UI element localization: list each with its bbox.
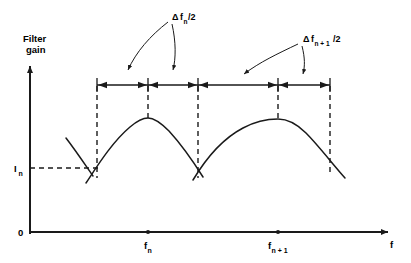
dim-arrow-1-left xyxy=(138,82,147,88)
dim-arrow-4-left xyxy=(320,82,329,88)
y-tick-label-in-sub: n xyxy=(19,170,23,177)
x-tick-fn: f n xyxy=(144,230,152,254)
annotation-delta-symbol-1: Δ xyxy=(172,12,179,22)
y-axis-label-line2: gain xyxy=(26,44,46,55)
annotation-suffix-2: /2 xyxy=(333,34,341,44)
annotation-sub-2: n + 1 xyxy=(315,40,330,47)
leader-delta-fn-right xyxy=(172,24,175,70)
filter-response-curves xyxy=(66,118,345,183)
x-tick-label-fn1-sub: n + 1 xyxy=(272,247,288,254)
dim-arrow-1-right xyxy=(98,82,107,88)
bandwidth-dimension-line xyxy=(97,78,330,92)
annotation-suffix-1: /2 xyxy=(188,12,196,22)
leader-delta-fn1-left xyxy=(244,44,298,74)
y-axis-label-line1: Filter xyxy=(23,33,47,44)
leader-delta-fn-left xyxy=(128,22,168,70)
annotation-sub-1: n xyxy=(184,18,188,25)
dim-arrow-2-right xyxy=(149,82,158,88)
annotation-delta-fn-over-2: Δ f n /2 xyxy=(172,12,196,25)
y-tick-label-in: I n xyxy=(14,163,23,177)
x-tick-fn-plus-1: f n + 1 xyxy=(268,230,288,254)
curve-filter-n-plus-1 xyxy=(193,119,345,180)
axes-group xyxy=(30,66,388,234)
dim-arrow-2-left xyxy=(188,82,197,88)
annotation-leaders xyxy=(128,22,304,74)
filter-gain-diagram: Filter gain I n 0 f f n f n + 1 xyxy=(0,0,411,263)
x-tick-dot-fn-plus-1 xyxy=(276,230,280,234)
curve-filter-n-minus-1-tail xyxy=(66,138,93,176)
dim-arrow-3-left xyxy=(268,82,277,88)
dim-arrow-3-right xyxy=(199,82,208,88)
figure-canvas: Filter gain I n 0 f f n f n + 1 xyxy=(0,0,411,263)
dim-arrow-4-right xyxy=(279,82,288,88)
annotation-delta-fn-plus-1-over-2: Δ f n + 1 /2 xyxy=(303,34,341,47)
y-tick-label-in-main: I xyxy=(14,163,17,174)
x-axis-label: f xyxy=(390,239,394,250)
x-tick-dot-fn xyxy=(146,230,150,234)
origin-label: 0 xyxy=(18,227,23,238)
x-tick-label-fn-sub: n xyxy=(148,247,152,254)
leader-delta-fn1-right xyxy=(302,46,304,74)
annotation-delta-symbol-2: Δ xyxy=(303,34,310,44)
curve-filter-n xyxy=(86,118,203,183)
dashed-verticals xyxy=(97,86,330,178)
